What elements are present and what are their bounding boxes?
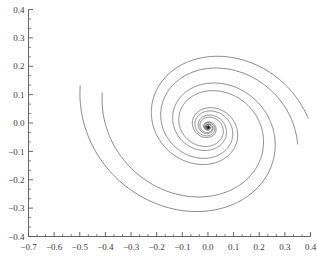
trajectory-curve [161,68,298,158]
x-tick-label: −0.3 [123,242,140,252]
plot-canvas: −0.7−0.6−0.5−0.4−0.3−0.2−0.10.00.10.20.3… [0,0,317,262]
x-tick-label: 0.0 [202,242,214,252]
tick-labels: −0.7−0.6−0.5−0.4−0.3−0.2−0.10.00.10.20.3… [8,5,316,252]
x-tick-label: −0.6 [46,242,63,252]
trajectory-curve [151,56,308,164]
trajectory-curve [80,83,275,212]
x-tick-label: −0.4 [97,242,114,252]
y-tick-label: 0.0 [13,118,25,128]
y-tick-label: −0.3 [8,203,25,213]
x-tick-label: −0.2 [149,242,165,252]
y-tick-label: 0.4 [13,5,25,15]
y-tick-label: 0.1 [13,90,24,100]
y-tick-label: 0.2 [13,61,24,71]
x-tick-label: 0.4 [305,242,317,252]
axes [29,10,311,237]
phase-portrait-plot: −0.7−0.6−0.5−0.4−0.3−0.2−0.10.00.10.20.3… [0,0,317,262]
trajectory-curves [80,56,308,211]
y-tick-label: 0.3 [13,33,25,43]
x-tick-label: −0.5 [72,242,89,252]
y-tick-label: −0.2 [8,175,24,185]
trajectory-curve [102,91,263,197]
x-tick-label: 0.2 [254,242,265,252]
x-tick-label: 0.3 [279,242,291,252]
y-tick-label: −0.4 [8,232,25,242]
x-tick-label: −0.1 [174,242,190,252]
x-tick-label: 0.1 [228,242,239,252]
x-tick-label: −0.7 [20,242,37,252]
y-tick-label: −0.1 [8,147,24,157]
